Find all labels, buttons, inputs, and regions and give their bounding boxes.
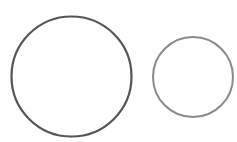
diagram-canvas xyxy=(0,0,237,142)
large-circle xyxy=(12,17,132,137)
small-circle xyxy=(153,37,233,117)
